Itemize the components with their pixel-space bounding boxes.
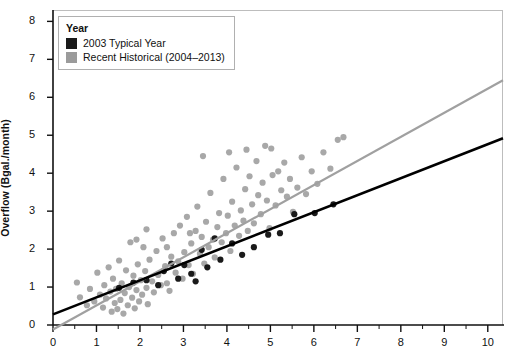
x-tick-label: 1 xyxy=(84,336,108,348)
trendline-layer xyxy=(53,80,503,329)
y-tick-label: 6 xyxy=(17,90,35,102)
x-tick-label: 4 xyxy=(215,336,239,348)
x-tick-label: 5 xyxy=(258,336,282,348)
x-tick-label: 6 xyxy=(302,336,326,348)
legend-label-2003: 2003 Typical Year xyxy=(83,37,166,49)
y-tick-label: 1 xyxy=(17,280,35,292)
x-tick-label: 10 xyxy=(476,336,500,348)
legend-swatch-recent xyxy=(66,52,77,63)
legend-swatch-2003 xyxy=(66,38,77,49)
y-tick-label: 5 xyxy=(17,128,35,140)
y-tick-label: 2 xyxy=(17,242,35,254)
x-tick-label: 7 xyxy=(345,336,369,348)
x-tick-label: 3 xyxy=(171,336,195,348)
legend-item: 2003 Typical Year xyxy=(66,37,225,49)
y-tick-label: 8 xyxy=(17,14,35,26)
y-tick-label: 3 xyxy=(17,204,35,216)
x-tick-label: 8 xyxy=(389,336,413,348)
y-tick-label: 0 xyxy=(17,318,35,330)
y-tick-label: 4 xyxy=(17,166,35,178)
x-tick-label: 0 xyxy=(41,336,65,348)
chart-legend: Year 2003 Typical Year Recent Historical… xyxy=(58,16,235,70)
chart-container: Overflow (Bgal./month) 01234567801234567… xyxy=(0,0,529,356)
x-tick-label: 2 xyxy=(128,336,152,348)
x-tick-label: 9 xyxy=(432,336,456,348)
legend-label-recent: Recent Historical (2004–2013) xyxy=(83,51,225,63)
y-tick-label: 7 xyxy=(17,52,35,64)
legend-title: Year xyxy=(66,22,225,34)
legend-item: Recent Historical (2004–2013) xyxy=(66,51,225,63)
